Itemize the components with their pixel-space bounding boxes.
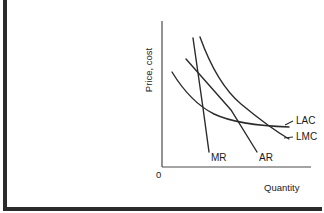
curve-ar (186, 59, 257, 152)
y-axis-label: Price, cost (143, 47, 154, 92)
curve-label-mr: MR (211, 152, 227, 163)
curve-label-lmc: LMC (296, 131, 317, 142)
x-axis-label: Quantity (264, 182, 300, 193)
curve-lmc (200, 37, 289, 139)
curve-label-lac: LAC (296, 115, 315, 126)
leader-line-lac (285, 121, 293, 125)
origin-label: 0 (156, 169, 161, 180)
curve-label-ar: AR (259, 152, 273, 163)
figure-root: Price, cost Quantity 0 LAC LMC MR AR (0, 0, 324, 213)
chart-canvas: Price, cost Quantity 0 LAC LMC MR AR (0, 0, 324, 213)
curve-lac (172, 72, 289, 127)
